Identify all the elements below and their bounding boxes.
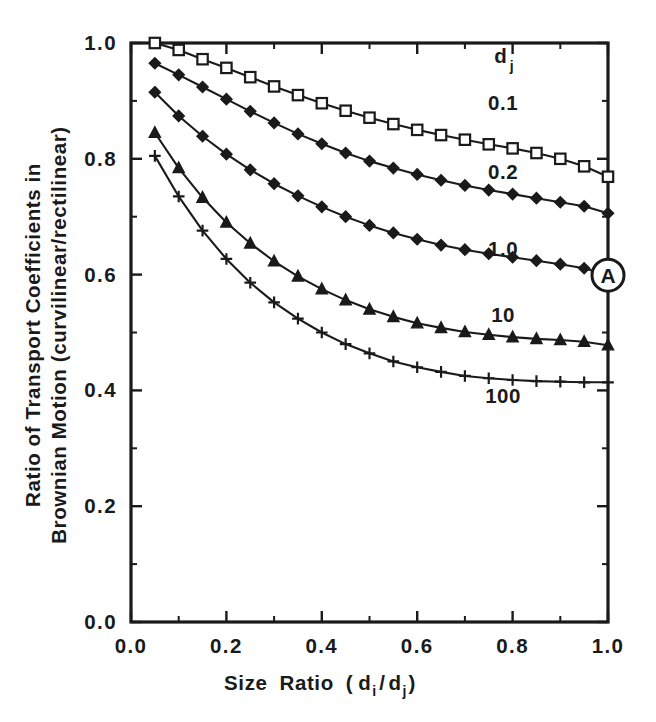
data-point xyxy=(555,259,566,270)
series-label-0-2: 0.2 xyxy=(488,160,518,183)
y-axis-tick-labels: 0.00.20.40.60.81.0 xyxy=(84,31,117,633)
data-point xyxy=(316,327,328,339)
legend-title-subscript: j xyxy=(509,58,514,74)
y-tick-label: 0.6 xyxy=(84,263,117,286)
data-point xyxy=(411,361,423,373)
data-point xyxy=(578,376,590,388)
x-axis-title: Size Ratio ( d i / d j ) xyxy=(224,671,416,699)
data-point xyxy=(340,338,352,350)
data-point xyxy=(245,72,255,82)
data-point xyxy=(292,128,303,139)
data-point xyxy=(174,45,184,55)
data-point xyxy=(388,356,400,368)
y-axis-title-line2: Brownian Motion (curvilinear/rectilinear… xyxy=(47,126,70,544)
data-point xyxy=(316,201,327,212)
svg-text:/: / xyxy=(379,671,385,694)
data-point xyxy=(579,161,589,171)
series-label-1-0: 1.0 xyxy=(488,237,518,260)
data-point xyxy=(364,220,375,231)
brownian-motion-transport-ratio-chart: Ratio of Transport Coefficients in Brown… xyxy=(0,0,656,722)
x-tick-label: 0.6 xyxy=(401,634,434,657)
data-point xyxy=(483,184,494,195)
data-point xyxy=(269,117,280,128)
data-point xyxy=(412,234,423,245)
data-point xyxy=(221,63,231,73)
data-point xyxy=(531,193,542,204)
data-point xyxy=(555,197,566,208)
y-axis-title-line1: Ratio of Transport Coefficients in xyxy=(21,163,44,507)
x-axis-tick-labels: 0.00.20.40.60.81.0 xyxy=(115,634,625,657)
data-point xyxy=(197,54,207,64)
data-point xyxy=(221,94,232,105)
data-point xyxy=(507,143,517,153)
svg-text:i: i xyxy=(372,683,376,699)
data-point xyxy=(531,148,541,158)
data-point xyxy=(579,201,590,212)
annotations-group: A xyxy=(592,259,624,291)
svg-text:Size: Size xyxy=(224,671,267,694)
x-tick-label: 0.8 xyxy=(496,634,529,657)
data-point xyxy=(436,130,446,140)
data-point xyxy=(507,189,518,200)
data-point xyxy=(269,81,279,91)
series-label-0-1: 0.1 xyxy=(488,91,518,114)
data-point xyxy=(292,270,303,281)
data-point xyxy=(602,376,614,388)
data-point xyxy=(269,178,280,189)
data-point xyxy=(149,127,160,138)
x-tick-label: 0.4 xyxy=(305,634,338,657)
series-label-100: 100 xyxy=(485,384,521,407)
svg-text:j: j xyxy=(402,683,407,699)
series-0-2 xyxy=(149,58,613,219)
series-100 xyxy=(149,150,614,388)
svg-text:d: d xyxy=(358,671,371,694)
svg-text:(: ( xyxy=(346,671,353,694)
y-tick-label: 1.0 xyxy=(84,31,117,54)
series-line xyxy=(155,156,608,382)
x-tick-label: 0.0 xyxy=(115,634,148,657)
annotation-label-A: A xyxy=(600,264,615,287)
x-tick-label: 0.2 xyxy=(210,634,243,657)
data-point xyxy=(460,134,470,144)
svg-text:Ratio: Ratio xyxy=(280,671,334,694)
series-label-10: 10 xyxy=(491,303,515,326)
data-point xyxy=(555,376,567,388)
data-point xyxy=(292,313,304,325)
data-point xyxy=(245,106,256,117)
data-point xyxy=(150,38,160,48)
data-point xyxy=(531,255,542,266)
data-point xyxy=(316,283,327,294)
legend-title: d xyxy=(494,44,507,67)
data-point xyxy=(388,162,399,173)
legend-title-group: dj xyxy=(494,44,513,74)
data-point xyxy=(149,58,160,69)
series-line xyxy=(155,63,608,213)
data-point xyxy=(364,112,374,122)
data-point xyxy=(364,348,376,360)
x-tick-label: 1.0 xyxy=(592,634,625,657)
y-tick-label: 0.8 xyxy=(84,147,117,170)
data-point xyxy=(340,147,351,158)
data-point xyxy=(483,372,495,384)
chart-figure: Ratio of Transport Coefficients in Brown… xyxy=(0,0,656,722)
data-point xyxy=(579,263,590,274)
svg-text:d: d xyxy=(389,671,402,694)
data-point xyxy=(531,375,543,387)
data-point xyxy=(269,255,280,266)
data-point xyxy=(388,227,399,238)
data-point xyxy=(293,90,303,100)
data-point xyxy=(435,175,446,186)
series-0-1 xyxy=(150,38,614,182)
data-point xyxy=(435,366,447,378)
data-point xyxy=(292,190,303,201)
data-point xyxy=(317,98,327,108)
data-point xyxy=(245,164,256,175)
data-point xyxy=(173,69,184,80)
data-point xyxy=(340,106,350,116)
data-point xyxy=(555,154,565,164)
data-point xyxy=(459,370,471,382)
data-point xyxy=(197,81,208,92)
data-point xyxy=(603,172,613,182)
y-tick-label: 0.2 xyxy=(84,494,117,517)
series-group xyxy=(149,38,614,388)
